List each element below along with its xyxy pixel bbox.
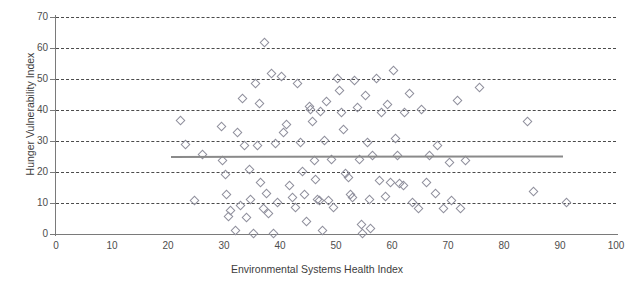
- data-point: [339, 125, 349, 135]
- data-point: [405, 89, 415, 99]
- data-point: [302, 216, 312, 226]
- data-point: [181, 139, 191, 149]
- x-axis-title: Environmental Systems Health Index: [0, 263, 634, 275]
- data-point: [175, 115, 185, 125]
- data-point: [216, 122, 226, 132]
- data-point: [230, 225, 240, 235]
- data-point: [322, 97, 332, 107]
- data-point: [447, 196, 457, 206]
- data-point: [255, 98, 265, 108]
- data-point: [261, 188, 271, 198]
- data-point: [315, 106, 325, 116]
- data-point: [362, 137, 372, 147]
- data-point: [241, 213, 251, 223]
- data-point: [220, 170, 230, 180]
- data-point: [279, 128, 289, 138]
- data-point: [244, 165, 254, 175]
- data-point: [189, 196, 199, 206]
- data-point: [273, 197, 283, 207]
- x-tick-label-20: 20: [148, 241, 188, 251]
- data-point: [360, 91, 370, 101]
- x-tick-label-70: 70: [428, 241, 468, 251]
- data-point: [256, 177, 266, 187]
- data-point: [246, 194, 256, 204]
- data-point: [522, 117, 532, 127]
- data-point: [270, 139, 280, 149]
- data-point: [390, 134, 400, 144]
- data-point: [385, 177, 395, 187]
- data-point: [276, 72, 286, 82]
- data-point: [430, 188, 440, 198]
- x-tick-label-60: 60: [372, 241, 412, 251]
- data-point: [307, 117, 317, 127]
- data-point: [528, 187, 538, 197]
- data-point: [350, 75, 360, 85]
- data-point: [452, 95, 462, 105]
- data-point: [377, 108, 387, 118]
- data-point: [293, 78, 303, 88]
- data-point: [334, 86, 344, 96]
- data-point: [311, 174, 321, 184]
- data-point: [348, 193, 358, 203]
- data-point: [259, 38, 269, 48]
- data-point: [250, 78, 260, 88]
- x-tick-label-10: 10: [92, 241, 132, 251]
- data-point: [382, 100, 392, 110]
- x-tick-label-80: 80: [484, 241, 524, 251]
- data-point: [444, 157, 454, 167]
- data-point: [365, 194, 375, 204]
- x-tick-label-40: 40: [260, 241, 300, 251]
- data-point: [238, 94, 248, 104]
- y-tick-0: [50, 234, 56, 235]
- data-point: [320, 135, 330, 145]
- data-point: [287, 193, 297, 203]
- data-point: [416, 104, 426, 114]
- data-point: [352, 103, 362, 113]
- scatter-chart: 010203040506070 0102030405060708090100 E…: [0, 0, 634, 283]
- data-point: [332, 73, 342, 83]
- x-tick-label-50: 50: [316, 241, 356, 251]
- x-axis-line: [55, 234, 618, 235]
- data-point: [438, 204, 448, 214]
- y-axis-title: Hunger Vulnerability Index: [24, 14, 36, 214]
- data-point: [374, 176, 384, 186]
- data-point: [236, 201, 246, 211]
- plot-area: [56, 17, 616, 234]
- data-point: [455, 204, 465, 214]
- data-point: [337, 108, 347, 118]
- y-tick-label-0: 0: [8, 229, 48, 239]
- data-point: [300, 190, 310, 200]
- data-point: [388, 66, 398, 76]
- data-point: [291, 202, 301, 212]
- data-point: [232, 128, 242, 138]
- data-point: [399, 108, 409, 118]
- x-tick-label-100: 100: [596, 241, 634, 251]
- data-point: [222, 190, 232, 200]
- data-point: [475, 83, 485, 93]
- data-point: [248, 228, 258, 238]
- data-point: [371, 73, 381, 83]
- data-point: [267, 69, 277, 79]
- data-point: [240, 140, 250, 150]
- data-point: [562, 197, 572, 207]
- data-point: [295, 137, 305, 147]
- data-point: [268, 228, 278, 238]
- x-tick-label-0: 0: [36, 241, 76, 251]
- x-tick-label-90: 90: [540, 241, 580, 251]
- data-point: [433, 140, 443, 150]
- data-point: [317, 225, 327, 235]
- data-point: [253, 140, 263, 150]
- x-tick-label-30: 30: [204, 241, 244, 251]
- data-point: [297, 166, 307, 176]
- trend-line: [171, 155, 563, 158]
- data-point: [422, 177, 432, 187]
- data-point: [380, 191, 390, 201]
- data-point: [284, 180, 294, 190]
